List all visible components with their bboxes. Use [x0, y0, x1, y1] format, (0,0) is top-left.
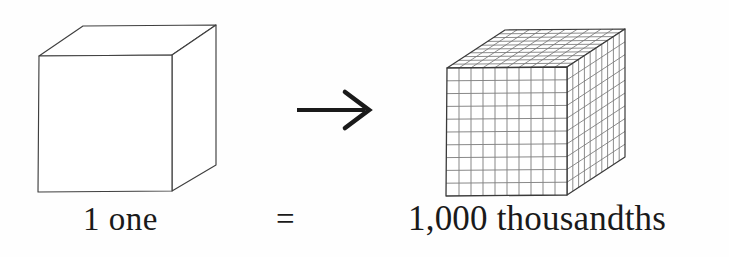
equals-sign: =	[276, 203, 295, 236]
thousandths-cube-front-face	[446, 67, 567, 196]
unit-cube-front-face	[38, 55, 172, 192]
unit-cube-right-face	[172, 25, 216, 191]
thousandths-cube	[446, 29, 625, 196]
label-one-one: 1 one	[83, 203, 158, 236]
label-one-thousand-thousandths: 1,000 thousandths	[408, 201, 666, 236]
unit-cube	[38, 25, 216, 192]
